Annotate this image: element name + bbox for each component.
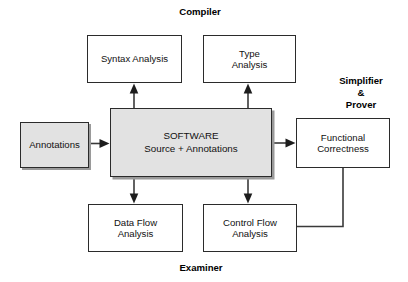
- node-syntax-analysis[interactable]: Syntax Analysis: [87, 35, 182, 83]
- connector-software-to-control-flow-analysis: [244, 177, 253, 204]
- connector-software-to-syntax-analysis: [130, 84, 139, 109]
- connector-software-to-data-flow-analysis: [130, 177, 139, 204]
- connector-annotations-to-software: [89, 139, 110, 148]
- node-software[interactable]: SOFTWARE Source + Annotations: [110, 108, 272, 177]
- node-functional-correctness[interactable]: Functional Correctness: [296, 118, 390, 168]
- group-label-compiler: Compiler: [168, 6, 232, 18]
- group-label-simplifier-prover: Simplifier & Prover: [330, 75, 392, 111]
- group-label-examiner: Examiner: [169, 262, 233, 274]
- connector-functional-correctness-to-control-flow-analysis: [297, 168, 343, 227]
- node-type-analysis[interactable]: Type Analysis: [203, 35, 296, 83]
- diagram-canvas: Syntax Analysis Type Analysis Annotation…: [0, 0, 408, 282]
- node-annotations[interactable]: Annotations: [20, 122, 89, 168]
- connector-software-to-type-analysis: [244, 84, 253, 109]
- connector-software-to-functional-correctness: [272, 139, 296, 148]
- node-data-flow-analysis[interactable]: Data Flow Analysis: [88, 204, 183, 252]
- node-control-flow-analysis[interactable]: Control Flow Analysis: [203, 204, 297, 252]
